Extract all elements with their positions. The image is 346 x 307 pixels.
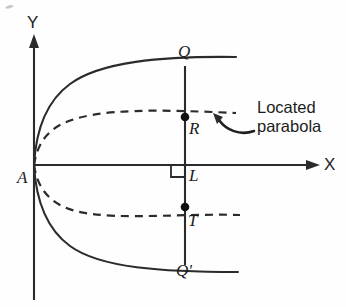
scan-artifact (5, 5, 14, 9)
annotation-line-2: parabola (257, 117, 321, 136)
annotation-line-1: Located (257, 98, 316, 117)
point-label-Q: Q (178, 43, 190, 61)
point-label-L: L (189, 167, 198, 185)
point-label-A: A (17, 169, 27, 187)
x-axis-label: X (324, 156, 335, 174)
x-axis-arrowhead (306, 160, 320, 170)
point-label-T: T (188, 212, 197, 230)
point-dot-R (181, 113, 190, 122)
point-dot-T (181, 203, 190, 212)
right-angle-mark (171, 165, 184, 177)
point-label-R: R (189, 120, 199, 138)
diagram-canvas (0, 0, 346, 307)
y-axis-label: Y (27, 14, 38, 32)
y-axis-arrowhead (29, 34, 39, 48)
parabola-diagram: Y X A Q R L T Q' Located parabola (0, 0, 346, 307)
given-parabola-lower-branch (34, 165, 238, 272)
point-label-Q-prime: Q' (176, 262, 192, 280)
located-parabola-upper-branch (34, 111, 236, 165)
located-parabola-lower-branch (34, 165, 240, 216)
annotation-pointer-arc (219, 120, 254, 133)
